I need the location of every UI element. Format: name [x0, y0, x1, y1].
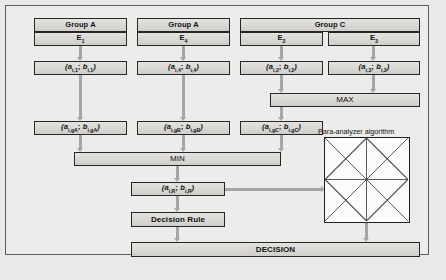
expert-box-e4: E4	[137, 32, 230, 46]
decision-rule-label: Decision Rule	[151, 216, 205, 224]
pair-box-igc: (ai,gC; bi,gC)	[240, 121, 323, 135]
max-label: MAX	[336, 96, 354, 104]
pair-igc-label: (ai,gC; bi,gC)	[262, 123, 301, 133]
diagram-frame: Group A Group A Group C E1 E4 E2 E3 (ai,…	[5, 5, 429, 255]
para-analyzer-label: Para-analyzer algorithm	[318, 127, 394, 136]
connector-pair1-to-pairga	[79, 75, 82, 119]
decision-box: DECISION	[131, 242, 420, 257]
connector-pair4-to-pairgb	[182, 75, 185, 119]
pair-box-i4: (ai,4; bi,4)	[137, 61, 230, 75]
decision-rule-box: Decision Rule	[131, 212, 225, 227]
pair-i2-label: (ai,2; bi,2)	[266, 63, 297, 73]
pair-box-igb: (ai,gB; bi,gB)	[137, 121, 230, 135]
expert-e4-label: E4	[179, 34, 187, 44]
para-analyzer-diagram	[324, 137, 410, 223]
pair-i1-label: (ai,1; bi,1)	[65, 63, 96, 73]
max-box: MAX	[270, 93, 420, 107]
pair-iga-label: (ai,gA; bi,gA)	[61, 123, 100, 133]
group-header-c-label: Group C	[315, 21, 346, 29]
pair-box-iga: (ai,gA; bi,gA)	[34, 121, 127, 135]
min-label: MIN	[170, 155, 185, 163]
pair-box-i3: (ai,3; bi,3)	[328, 61, 420, 75]
group-header-c: Group C	[240, 18, 420, 32]
pair-box-i2: (ai,2; bi,2)	[240, 61, 323, 75]
expert-e2-label: E2	[277, 34, 285, 44]
group-header-a2: Group A	[137, 18, 230, 32]
pair-igb-label: (ai,gB; bi,gB)	[164, 123, 203, 133]
min-box: MIN	[74, 152, 281, 166]
expert-box-e1: E1	[34, 32, 127, 46]
group-header-a1-label: Group A	[65, 21, 95, 29]
decision-label: DECISION	[256, 246, 295, 254]
group-header-a2-label: Group A	[168, 21, 198, 29]
pair-box-i1: (ai,1; bi,1)	[34, 61, 127, 75]
expert-e3-label: E3	[370, 34, 378, 44]
expert-e1-label: E1	[76, 34, 84, 44]
connector-result-to-para-analyzer	[225, 188, 323, 191]
pair-ir-label: (ai,R; bi,R)	[162, 184, 194, 194]
group-header-a1: Group A	[34, 18, 127, 32]
expert-box-e2: E2	[240, 32, 323, 46]
pair-box-ir: (ai,R; bi,R)	[131, 182, 225, 196]
pair-i3-label: (ai,3; bi,3)	[359, 63, 390, 73]
para-analyzer-lattice	[325, 138, 408, 221]
expert-box-e3: E3	[328, 32, 420, 46]
pair-i4-label: (ai,4; bi,4)	[168, 63, 199, 73]
